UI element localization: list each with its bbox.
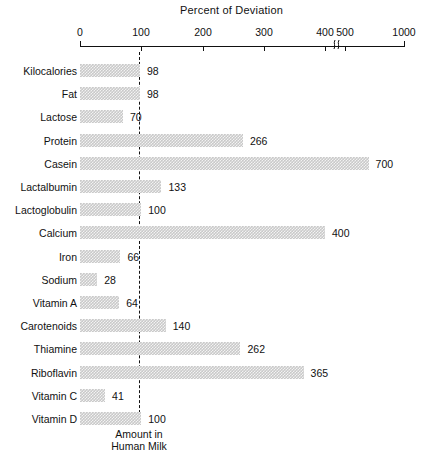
bar-row: Calcium400 <box>0 226 427 248</box>
bar-row: Lactoglobulin100 <box>0 203 427 225</box>
bar-category-label: Vitamin C <box>0 390 77 403</box>
bar-category-label: Calcium <box>0 227 77 240</box>
bar-row: Riboflavin365 <box>0 366 427 388</box>
bar <box>80 342 240 355</box>
bar <box>80 389 105 402</box>
bar-value-label: 70 <box>130 111 142 124</box>
bar-category-label: Kilocalories <box>0 65 77 78</box>
bar <box>80 250 120 263</box>
bar-category-label: Thiamine <box>0 343 77 356</box>
bar-category-label: Lactoglobulin <box>0 204 77 217</box>
bar-row: Iron66 <box>0 250 427 272</box>
bar-value-label: 66 <box>127 251 139 264</box>
bar <box>80 203 141 216</box>
bar-category-label: Lactalbumin <box>0 181 77 194</box>
bar <box>80 87 140 100</box>
bar-value-label: 98 <box>147 65 159 78</box>
bar-value-label: 400 <box>332 227 350 240</box>
bar-value-label: 262 <box>247 343 265 356</box>
bar <box>80 226 325 239</box>
bar-category-label: Sodium <box>0 274 77 287</box>
bar-value-label: 98 <box>147 88 159 101</box>
bar-category-label: Vitamin A <box>0 297 77 310</box>
bar-value-label: 28 <box>104 274 116 287</box>
bar-row: Lactose70 <box>0 110 427 132</box>
bar-row: Kilocalories98 <box>0 64 427 86</box>
bar-category-label: Vitamin D <box>0 413 77 426</box>
bar <box>80 319 166 332</box>
bar-category-label: Casein <box>0 158 77 171</box>
bar <box>80 64 140 77</box>
bar <box>80 412 141 425</box>
bar-value-label: 266 <box>250 135 268 148</box>
bar-row: Fat98 <box>0 87 427 109</box>
bar-row: Lactalbumin133 <box>0 180 427 202</box>
bar <box>80 110 123 123</box>
bar <box>80 366 304 379</box>
bar-value-label: 41 <box>112 390 124 403</box>
bar-rows: Kilocalories98Fat98Lactose70Protein266Ca… <box>0 0 427 466</box>
bar-row: Vitamin C41 <box>0 389 427 411</box>
bar-value-label: 100 <box>148 413 166 426</box>
bar-value-label: 365 <box>311 367 329 380</box>
bar-row: Protein266 <box>0 134 427 156</box>
bar-row: Thiamine262 <box>0 342 427 364</box>
bar <box>80 296 119 309</box>
bar-row: Vitamin A64 <box>0 296 427 318</box>
bar-category-label: Riboflavin <box>0 367 77 380</box>
bar <box>80 134 243 147</box>
bar-row: Casein700 <box>0 157 427 179</box>
bar <box>80 157 369 170</box>
bar-value-label: 133 <box>168 181 186 194</box>
bar-category-label: Lactose <box>0 111 77 124</box>
bar-row: Carotenoids140 <box>0 319 427 341</box>
bar-value-label: 140 <box>173 320 191 333</box>
bar-category-label: Protein <box>0 135 77 148</box>
bar-category-label: Carotenoids <box>0 320 77 333</box>
bar-value-label: 700 <box>376 158 394 171</box>
bar <box>80 180 161 193</box>
bar-row: Vitamin D100 <box>0 412 427 434</box>
chart-root: Percent of Deviation 0100200300400500100… <box>0 0 427 466</box>
bar-row: Sodium28 <box>0 273 427 295</box>
bar-value-label: 64 <box>126 297 138 310</box>
bar-value-label: 100 <box>148 204 166 217</box>
bar <box>80 273 97 286</box>
bar-category-label: Fat <box>0 88 77 101</box>
bar-category-label: Iron <box>0 251 77 264</box>
